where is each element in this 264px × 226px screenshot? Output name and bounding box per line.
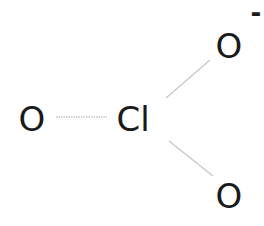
- bond-cl-o-top: [166, 60, 210, 98]
- atom-oxygen-left: O: [19, 102, 46, 136]
- negative-charge: -: [251, 0, 262, 26]
- atom-oxygen-top: O: [216, 29, 243, 63]
- atom-chlorine: Cl: [116, 102, 149, 136]
- atom-oxygen-bottom: O: [216, 179, 243, 213]
- bond-cl-o-bottom: [169, 141, 213, 176]
